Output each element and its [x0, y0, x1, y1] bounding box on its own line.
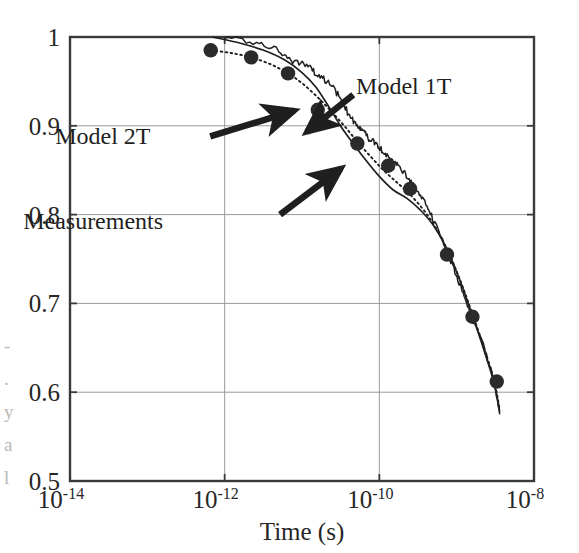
x-axis-tick-label: 10-8: [506, 485, 544, 513]
data-point-marker: [490, 374, 504, 388]
data-point-marker: [381, 159, 395, 173]
svg-text:10-10: 10-10: [347, 485, 393, 513]
y-axis-tick-label: 1: [48, 24, 61, 51]
page-edge-fragment: y: [4, 401, 14, 422]
x-axis-tick-label: 10-10: [347, 485, 393, 513]
y-axis-tick-label: 0.7: [29, 290, 60, 317]
page-edge-fragment: a: [4, 434, 13, 455]
annotation-label-model-1t: Model 1T: [356, 73, 452, 99]
x-axis-title: Time (s): [260, 518, 345, 546]
annotation-label-measurements: Measurements: [23, 208, 163, 234]
page-edge-fragment: -: [4, 335, 10, 356]
y-axis-tick-label: 0.6: [29, 379, 60, 406]
y-axis-tick-labels: 10.90.80.70.60.5: [29, 24, 60, 495]
svg-text:10-8: 10-8: [506, 485, 544, 513]
annotation-label-model-2t: Model 2T: [55, 123, 151, 149]
plot-background: [70, 37, 534, 481]
data-point-marker: [204, 43, 218, 57]
data-point-marker: [244, 50, 258, 64]
x-axis-tick-label: 10-14: [38, 485, 84, 513]
data-point-marker: [465, 310, 479, 324]
data-point-marker: [311, 103, 325, 117]
data-point-marker: [281, 66, 295, 80]
svg-text:10-14: 10-14: [38, 485, 84, 513]
page-edge-fragment: .: [4, 368, 9, 389]
x-axis-tick-label: 10-12: [193, 485, 239, 513]
page-edge-fragment: l: [4, 467, 9, 488]
x-axis-tick-labels: 10-1410-1210-1010-8: [38, 485, 544, 513]
chart-canvas: 10.90.80.70.60.5 10-1410-1210-1010-8 Mod…: [0, 0, 579, 553]
data-point-marker: [350, 136, 364, 150]
data-point-marker: [403, 182, 417, 196]
svg-text:10-12: 10-12: [193, 485, 239, 513]
page-edge-fragments: -.yal: [4, 335, 14, 488]
data-point-marker: [440, 247, 454, 261]
figure-root: 10.90.80.70.60.5 10-1410-1210-1010-8 Mod…: [0, 0, 579, 553]
